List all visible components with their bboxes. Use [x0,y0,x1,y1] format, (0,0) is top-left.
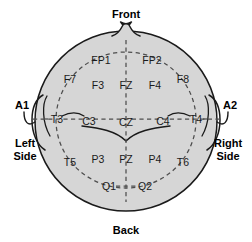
nose-shape [112,24,140,36]
left-side-label-line1: Left [13,137,36,150]
left-side-label: Left Side [13,137,36,162]
electrode-t5: T5 [64,157,76,168]
reference-electrode-a1: A1 [15,100,29,111]
electrode-t6: T6 [177,157,189,168]
electrode-f7: F7 [64,74,76,85]
electrode-fz: FZ [120,80,133,91]
right-side-label-line2: Side [214,150,242,163]
electrode-c3: C3 [82,116,95,127]
electrode-t3: T3 [51,114,63,125]
electrode-cz: CZ [119,117,133,128]
reference-electrode-a2: A2 [223,100,237,111]
electrode-p3: P3 [92,154,105,165]
electrode-p4: P4 [149,154,162,165]
right-side-label-line1: Right [214,137,242,150]
electrode-f4: F4 [149,80,161,91]
electrode-q2: Q2 [138,181,152,192]
eeg-electrode-diagram: Front Back Left Side Right Side A1 A2 FP… [0,0,252,242]
electrode-f8: F8 [177,74,189,85]
electrode-fp1: FP1 [91,55,110,66]
left-side-label-line2: Side [13,150,36,163]
a1-leader-line [24,112,35,124]
a2-leader-line [217,112,228,124]
electrode-c4: C4 [156,116,169,127]
electrode-pz: PZ [119,154,132,165]
electrode-fp2: FP2 [142,55,161,66]
back-label: Back [113,225,139,236]
electrode-f3: F3 [92,80,104,91]
right-side-label: Right Side [214,137,242,162]
front-label: Front [112,9,140,20]
electrode-q1: Q1 [102,181,116,192]
electrode-t4: T4 [190,114,202,125]
